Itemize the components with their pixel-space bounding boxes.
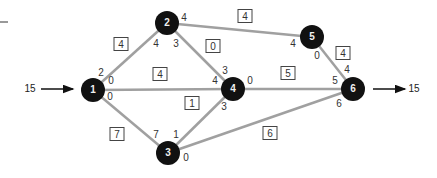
flow-4-6-at-4: 0 xyxy=(247,76,253,86)
diagram-canvas xyxy=(0,0,437,178)
capacity-box-3-6: 6 xyxy=(263,126,278,140)
flow-5-6-at-5: 0 xyxy=(314,51,320,61)
edge-3-4 xyxy=(168,89,233,153)
capacity-box-1-2: 4 xyxy=(114,37,129,51)
capacity-box-2-5: 4 xyxy=(238,9,253,23)
edge-1-3 xyxy=(93,90,168,153)
node-label-1: 1 xyxy=(90,85,96,95)
flow-1-2-at-1: 2 xyxy=(98,68,104,78)
node-label-3: 3 xyxy=(165,148,171,158)
node-label-5: 5 xyxy=(309,32,315,42)
flow-1-4-at-1: 0 xyxy=(108,76,114,86)
flow-1-4-at-4: 4 xyxy=(212,76,218,86)
capacity-box-1-4: 4 xyxy=(153,67,168,81)
flow-1-3-at-3: 7 xyxy=(153,130,159,140)
edge-1-4 xyxy=(93,89,233,90)
capacity-box-2-4: 0 xyxy=(206,39,221,53)
flow-4-6-at-6: 5 xyxy=(332,76,338,86)
flow-3-4-at-4: 3 xyxy=(221,102,227,112)
capacity-box-4-6: 5 xyxy=(281,66,296,80)
flow-3-4-at-3: 1 xyxy=(173,130,179,140)
flow-network-diagram: 1 2 3 4 5 6 15 15 4 4 7 0 4 1 6 5 4 2 4 … xyxy=(0,0,437,178)
flow-5-6-at-6: 4 xyxy=(344,65,350,75)
flow-2-4-at-2: 3 xyxy=(173,39,179,49)
flow-2-5-at-5: 4 xyxy=(290,39,296,49)
node-label-4: 4 xyxy=(230,84,236,94)
flow-1-2-at-2: 4 xyxy=(153,39,159,49)
sink-flow-label: 15 xyxy=(408,84,419,94)
flow-1-3-at-1: 0 xyxy=(107,92,113,102)
node-label-6: 6 xyxy=(350,84,356,94)
flow-2-4-at-4: 3 xyxy=(222,66,228,76)
flow-3-6-at-3: 0 xyxy=(183,153,189,163)
edge-2-4 xyxy=(167,23,233,89)
flow-2-5-at-2: 4 xyxy=(181,13,187,23)
capacity-box-1-3: 7 xyxy=(110,127,125,141)
source-flow-label: 15 xyxy=(24,84,35,94)
flow-3-6-at-6: 6 xyxy=(336,99,342,109)
edge-2-5 xyxy=(167,23,312,37)
node-label-2: 2 xyxy=(164,18,170,28)
capacity-box-3-4: 1 xyxy=(185,96,200,110)
capacity-box-5-6: 4 xyxy=(336,46,351,60)
